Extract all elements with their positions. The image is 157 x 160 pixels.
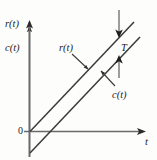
- lag-label-T: T: [121, 43, 127, 54]
- ramp-response-figure: r(t) c(t) t 0 r(t) c(t) T: [0, 0, 157, 160]
- reference-label-leader: [72, 54, 88, 69]
- y-axis-label-c: c(t): [5, 43, 20, 54]
- output-curve-label: c(t): [112, 90, 127, 101]
- origin-label: 0: [18, 126, 23, 136]
- y-axis-label-r: r(t): [5, 19, 19, 30]
- x-axis-label-t: t: [145, 137, 148, 148]
- figure-canvas: [0, 0, 157, 160]
- output-label-leader: [101, 71, 115, 86]
- reference-curve-label: r(t): [59, 43, 73, 54]
